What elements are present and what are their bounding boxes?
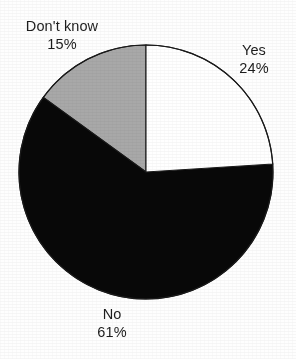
pie-label-no-value: 61% <box>62 324 162 341</box>
pie-label-dont-know-name: Don't know <box>10 18 114 35</box>
pie-label-yes-name: Yes <box>224 42 284 59</box>
pie-label-no: No 61% <box>62 306 162 340</box>
pie-label-yes: Yes 24% <box>224 42 284 76</box>
pie-label-no-name: No <box>62 306 162 323</box>
pie-label-yes-value: 24% <box>224 60 284 77</box>
pie-label-dont-know-value: 15% <box>10 36 114 53</box>
pie-label-dont-know: Don't know 15% <box>10 18 114 52</box>
pie-chart-figure: Don't know 15% Yes 24% No 61% <box>0 0 296 359</box>
